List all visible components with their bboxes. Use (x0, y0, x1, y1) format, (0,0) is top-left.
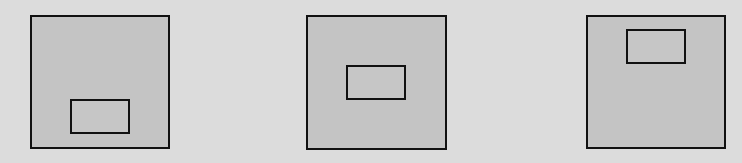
inner-rectangle-top-center (626, 29, 686, 64)
inner-rectangle-center (346, 65, 406, 100)
diagram-canvas (0, 0, 742, 163)
inner-rectangle-bottom-center (70, 99, 130, 134)
